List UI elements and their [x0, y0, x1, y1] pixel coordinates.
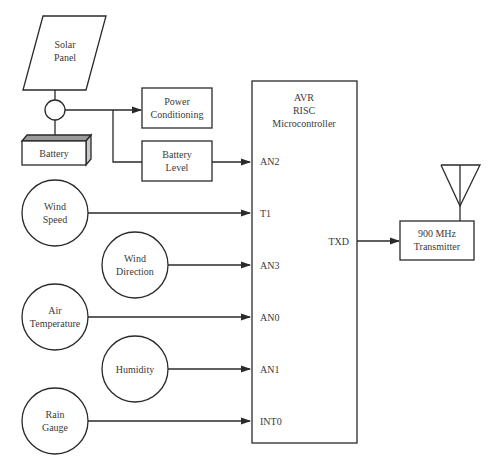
transmitter-label-line1: 900 MHz: [418, 228, 457, 239]
battery-side-face: [86, 135, 91, 165]
sensor-wind-direction: Wind Direction: [102, 232, 168, 298]
battery-level-label-line1: Battery: [162, 149, 191, 160]
wind-speed-label-line1: Wind: [44, 201, 66, 212]
pin-an1: AN1: [260, 364, 279, 375]
sensor-humidity: Humidity: [102, 336, 168, 402]
microcontroller-block: AVR RISC Microcontroller AN2 T1 AN3 AN0 …: [252, 81, 357, 443]
pin-an0: AN0: [260, 312, 279, 323]
humidity-label: Humidity: [116, 364, 154, 375]
air-temperature-label-line1: Air: [48, 305, 62, 316]
mcu-label-line2: RISC: [293, 105, 316, 116]
pin-an2: AN2: [260, 156, 279, 167]
pin-an3: AN3: [260, 260, 279, 271]
solar-panel-label-line1: Solar: [54, 39, 76, 50]
power-conditioning-label-line1: Power: [164, 96, 190, 107]
mcu-label-line1: AVR: [294, 92, 314, 103]
rain-gauge-label-line1: Rain: [46, 409, 65, 420]
mcu-label-line3: Microcontroller: [272, 118, 336, 129]
power-conditioning-label-line2: Conditioning: [151, 109, 204, 120]
pin-txd: TXD: [328, 236, 349, 247]
battery-level-label-line2: Level: [166, 162, 189, 173]
antenna-icon: [441, 165, 480, 221]
battery-top-face: [22, 135, 91, 141]
battery-label: Battery: [39, 148, 68, 159]
transmitter-label-line2: Transmitter: [414, 241, 461, 252]
wind-direction-label-line2: Direction: [116, 266, 154, 277]
solar-panel: Solar Panel: [23, 16, 106, 90]
pin-t1: T1: [260, 208, 271, 219]
battery: Battery: [22, 135, 91, 165]
sensor-air-temperature: Air Temperature: [22, 284, 88, 350]
weather-station-diagram: Solar Panel Battery Power Conditioning B…: [0, 0, 492, 468]
sensor-wind-speed: Wind Speed: [22, 180, 88, 246]
power-conditioning-block: Power Conditioning: [142, 88, 212, 128]
air-temperature-label-line2: Temperature: [30, 318, 81, 329]
sensor-rain-gauge: Rain Gauge: [22, 388, 88, 454]
transmitter-block: 900 MHz Transmitter: [400, 221, 474, 260]
power-junction: [45, 100, 65, 120]
wind-direction-label-line1: Wind: [124, 253, 146, 264]
wind-speed-label-line2: Speed: [43, 214, 67, 225]
battery-level-block: Battery Level: [142, 141, 212, 181]
pin-int0: INT0: [260, 416, 282, 427]
rain-gauge-label-line2: Gauge: [42, 422, 69, 433]
solar-panel-label-line2: Panel: [54, 52, 76, 63]
wire-to-battery-level: [113, 110, 142, 162]
